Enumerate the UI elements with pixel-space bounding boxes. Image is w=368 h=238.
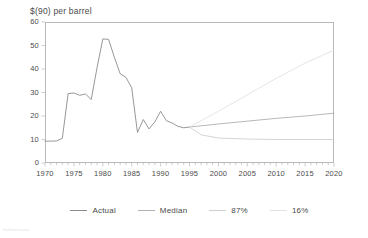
oil-price-chart: $(90) per barrel 0102030405060 197019751… xyxy=(0,0,368,238)
legend-item-actual[interactable]: Actual xyxy=(70,206,115,215)
legend-item-87-[interactable]: 87% xyxy=(209,206,248,215)
watermark: lisiifastiraals xyxy=(3,227,29,232)
x-tick-label: 2020 xyxy=(317,169,351,178)
legend-label: 87% xyxy=(231,206,248,215)
series-line-actual xyxy=(45,39,190,141)
y-tick-label: 20 xyxy=(15,111,39,120)
legend-swatch-icon xyxy=(209,210,226,211)
legend-label: 16% xyxy=(292,206,309,215)
y-tick-label: 30 xyxy=(15,88,39,97)
y-tick-label: 0 xyxy=(15,158,39,167)
legend-item-median[interactable]: Median xyxy=(138,206,187,215)
chart-legend: ActualMedian87%16% xyxy=(45,203,334,217)
y-tick-label: 10 xyxy=(15,135,39,144)
series-line-87- xyxy=(190,127,335,139)
y-tick-label: 60 xyxy=(15,17,39,26)
legend-item-16-[interactable]: 16% xyxy=(270,206,309,215)
legend-label: Median xyxy=(160,206,187,215)
legend-swatch-icon xyxy=(270,210,287,211)
legend-swatch-icon xyxy=(138,210,155,211)
data-series-layer xyxy=(45,39,334,141)
legend-swatch-icon xyxy=(70,210,87,211)
legend-label: Actual xyxy=(92,206,115,215)
y-tick-label: 50 xyxy=(15,41,39,50)
y-tick-label: 40 xyxy=(15,64,39,73)
